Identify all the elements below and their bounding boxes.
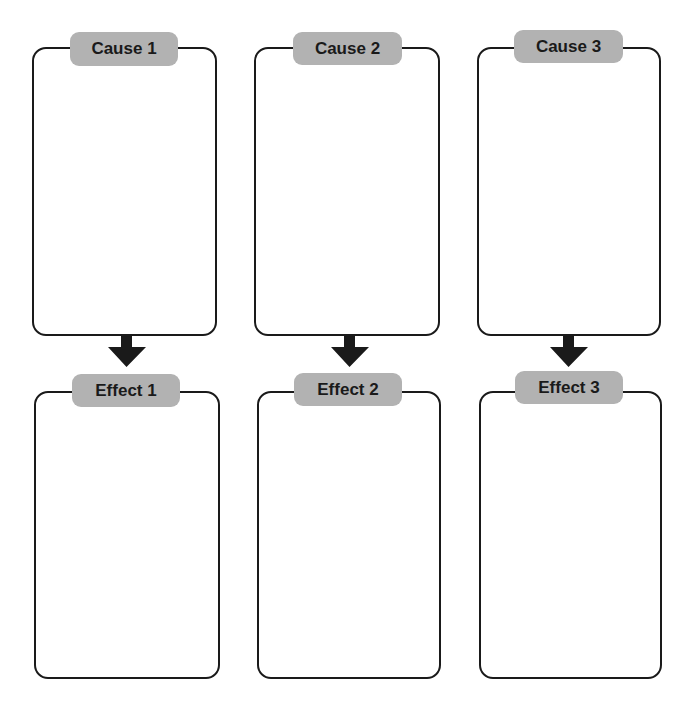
cause-1-label: Cause 1 [70, 32, 178, 66]
down-arrow-icon [107, 334, 147, 368]
cause-3-label: Cause 3 [514, 30, 623, 63]
effect-1-box[interactable] [34, 391, 220, 679]
down-arrow-icon [330, 334, 370, 368]
cause-2-label: Cause 2 [293, 32, 402, 65]
cause-1-box[interactable] [32, 47, 217, 336]
effect-3-box[interactable] [479, 391, 662, 679]
effect-2-box[interactable] [257, 391, 441, 679]
effect-3-label: Effect 3 [515, 371, 623, 404]
down-arrow-icon [549, 334, 589, 368]
cause-2-box[interactable] [254, 47, 440, 336]
cause-3-box[interactable] [477, 47, 661, 336]
effect-1-label: Effect 1 [72, 374, 180, 407]
effect-2-label: Effect 2 [294, 373, 402, 406]
